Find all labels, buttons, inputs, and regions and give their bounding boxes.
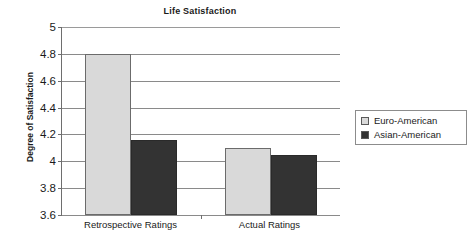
y-axis-title: Degree of Satisfaction bbox=[25, 37, 35, 197]
y-tick-mark bbox=[58, 108, 62, 109]
chart-legend: Euro-American Asian-American bbox=[355, 110, 467, 145]
legend-item-asian-american[interactable]: Asian-American bbox=[361, 129, 461, 141]
y-tick-mark bbox=[58, 161, 62, 162]
y-tick-label: 4.2 bbox=[40, 128, 56, 140]
y-tick-mark bbox=[58, 27, 62, 28]
y-tick-label: 4.8 bbox=[40, 48, 56, 60]
y-tick-label: 5 bbox=[50, 21, 56, 33]
y-tick-mark bbox=[58, 188, 62, 189]
x-category-label: Retrospective Ratings bbox=[84, 219, 177, 230]
gridline bbox=[62, 27, 340, 28]
plot-area: 54.84.64.44.243.83.6 bbox=[61, 27, 340, 216]
y-tick-label: 3.8 bbox=[40, 182, 56, 194]
y-tick-mark bbox=[58, 81, 62, 82]
legend-label-euro-american: Euro-American bbox=[374, 116, 437, 126]
legend-item-euro-american[interactable]: Euro-American bbox=[361, 115, 461, 127]
legend-label-asian-american: Asian-American bbox=[374, 130, 441, 140]
x-category-label: Actual Ratings bbox=[239, 219, 300, 230]
legend-swatch-asian-american bbox=[361, 131, 369, 139]
bar-0-1[interactable] bbox=[131, 140, 177, 215]
y-tick-label: 4 bbox=[50, 155, 56, 167]
bar-0-0[interactable] bbox=[85, 54, 131, 215]
y-tick-label: 3.6 bbox=[40, 209, 56, 221]
legend-swatch-euro-american bbox=[361, 117, 369, 125]
y-tick-mark bbox=[58, 54, 62, 55]
y-tick-label: 4.6 bbox=[40, 75, 56, 87]
x-tick-mark bbox=[201, 215, 202, 219]
y-tick-mark bbox=[58, 215, 62, 216]
bar-1-1[interactable] bbox=[271, 155, 317, 215]
bar-1-0[interactable] bbox=[225, 148, 271, 215]
y-tick-mark bbox=[58, 134, 62, 135]
y-tick-label: 4.4 bbox=[40, 102, 56, 114]
chart-title: Life Satisfaction bbox=[60, 6, 340, 16]
chart-figure: Life Satisfaction Degree of Satisfaction… bbox=[0, 0, 475, 249]
